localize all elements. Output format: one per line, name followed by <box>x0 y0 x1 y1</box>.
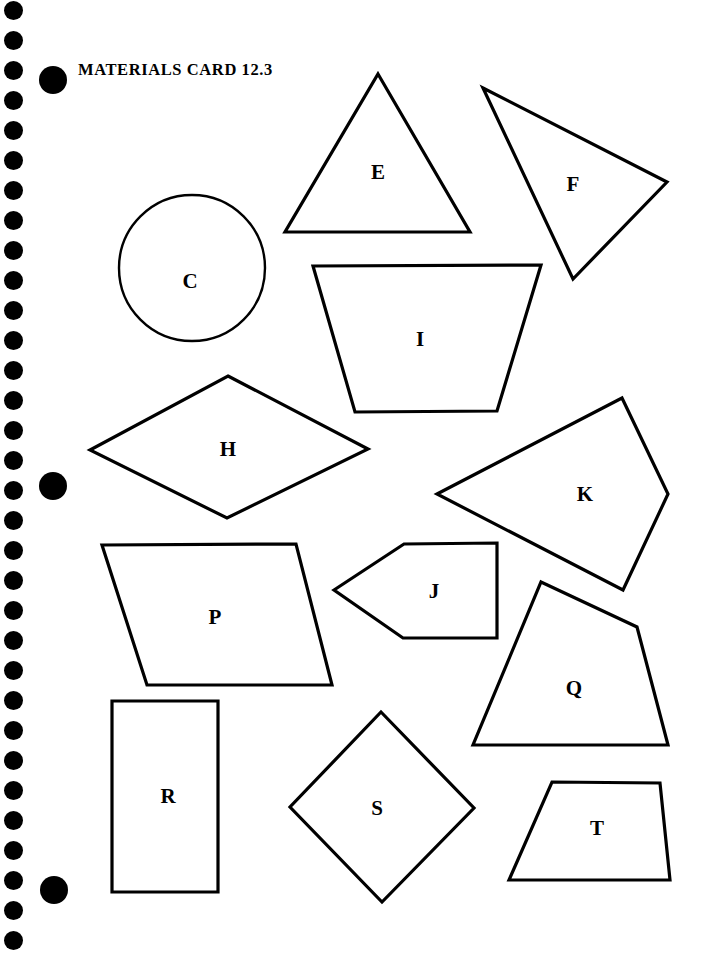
shape-label-k: K <box>577 482 593 507</box>
shape-label-s: S <box>371 796 383 821</box>
shape-label-j: J <box>429 579 440 604</box>
shape-label-f: F <box>567 172 580 197</box>
shapes-svg <box>0 0 713 956</box>
shape-label-h: H <box>220 437 236 462</box>
shape-pentagon-j <box>334 543 497 638</box>
shape-label-t: T <box>590 816 604 841</box>
shape-trapezoid-i <box>313 265 541 412</box>
shape-label-r: R <box>160 784 175 809</box>
shape-label-e: E <box>371 160 385 185</box>
shape-label-p: P <box>209 605 222 630</box>
shape-label-q: Q <box>566 676 582 701</box>
shape-label-c: C <box>182 269 197 294</box>
shapes-canvas <box>0 0 713 956</box>
shape-triangle-e <box>285 74 470 232</box>
shape-quadrilateral-q <box>473 582 668 745</box>
shape-label-i: I <box>416 327 424 352</box>
materials-card-page: MATERIALS CARD 12.3 CEFIHKJPQRST <box>0 0 713 956</box>
